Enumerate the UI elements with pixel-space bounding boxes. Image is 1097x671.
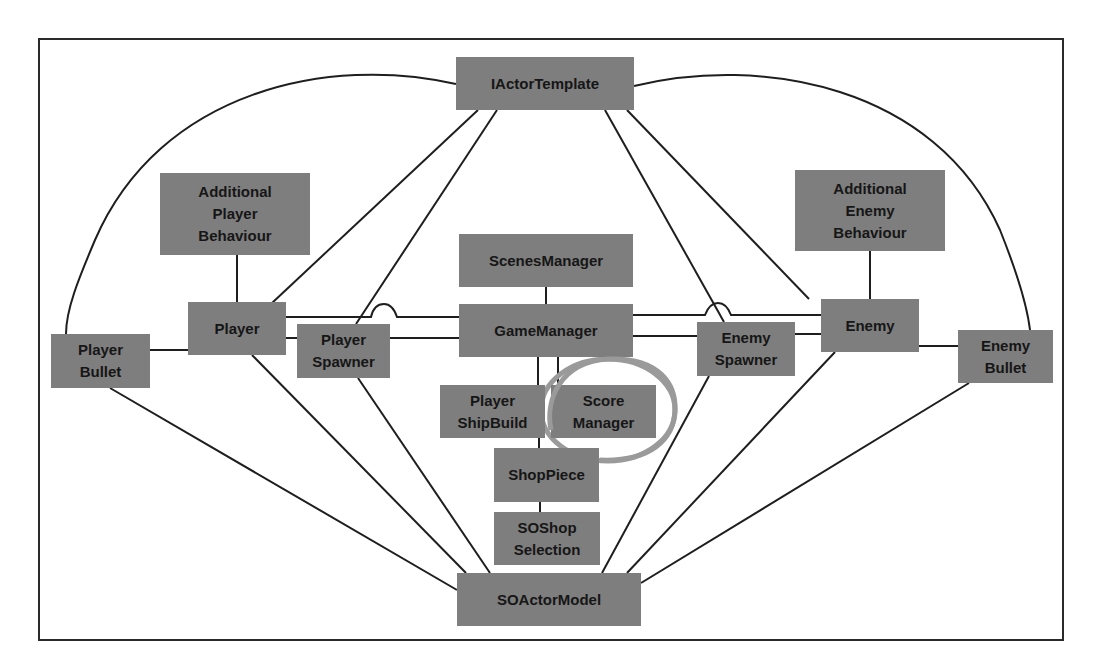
edge-player-soactormodel [252,355,466,573]
node-additional-player-behaviour: Additional Player Behaviour [160,173,310,255]
node-soactormodel: SOActorModel [457,573,641,626]
node-player-bullet: Player Bullet [51,334,150,388]
node-soshop-selection: SOShop Selection [494,512,600,565]
diagram-canvas: IActorTemplate Additional Player Behavio… [0,0,1097,671]
edge-playerbullet-soactormodel [110,388,457,590]
node-player-spawner: Player Spawner [297,324,390,378]
node-player-shipbuild: Player ShipBuild [440,385,545,438]
edge-iactortemplate-enemy [627,110,809,299]
node-score-manager: Score Manager [551,385,656,438]
node-shoppiece: ShopPiece [494,448,599,502]
edge-enemy-soactormodel [627,352,835,573]
node-scenesmanager: ScenesManager [459,234,633,287]
node-enemy-bullet: Enemy Bullet [958,330,1053,383]
node-additional-enemy-behaviour: Additional Enemy Behaviour [795,170,945,251]
edge-gamemanager-enemy [633,303,821,315]
node-enemy-spawner: Enemy Spawner [697,322,795,376]
node-gamemanager: GameManager [459,304,633,357]
node-player: Player [188,302,286,355]
node-iactortemplate: IActorTemplate [456,57,634,110]
node-enemy: Enemy [821,299,919,352]
edge-iactortemplate-enemy-spawner [605,110,724,322]
edge-player-gamemanager [286,304,459,317]
edge-iactortemplate-player-spawner [356,110,497,324]
edge-enemybullet-soactormodel [641,383,969,583]
